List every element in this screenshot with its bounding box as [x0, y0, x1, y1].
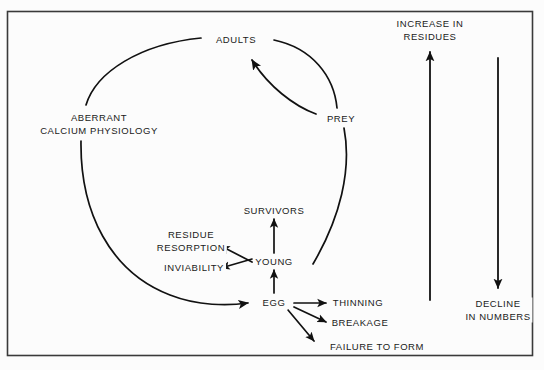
edge-prey-to-adults: [252, 60, 316, 114]
node-inviability: INVIABILITY: [162, 262, 226, 275]
node-egg: EGG: [261, 297, 288, 310]
node-breakage: BREAKAGE: [330, 317, 391, 330]
edge-adults-to-prey: [274, 40, 337, 108]
edge-egg-to-breakage: [294, 307, 326, 322]
edge-aberrant-to-egg: [81, 141, 248, 305]
node-residue-resorption: RESIDUE RESORPTION: [155, 229, 227, 254]
node-prey: PREY: [325, 113, 357, 126]
edge-prey-to-cycle: [313, 128, 346, 264]
node-aberrant-calcium-physiology: ABERRANT CALCIUM PHYSIOLOGY: [38, 112, 160, 137]
node-increase-in-residues: INCREASE IN RESIDUES: [395, 18, 466, 43]
node-survivors: SURVIVORS: [242, 205, 307, 218]
diagram-canvas: ADULTS ABERRANT CALCIUM PHYSIOLOGY PREY …: [0, 0, 544, 370]
node-adults: ADULTS: [214, 34, 258, 47]
node-young: YOUNG: [253, 256, 295, 269]
node-thinning: THINNING: [331, 297, 385, 310]
node-failure-to-form: FAILURE TO FORM: [328, 341, 426, 354]
node-decline-in-numbers: DECLINE IN NUMBERS: [463, 298, 532, 323]
edge-aberrant-to-adults: [86, 38, 201, 105]
diagram-vector-layer: [0, 0, 544, 370]
